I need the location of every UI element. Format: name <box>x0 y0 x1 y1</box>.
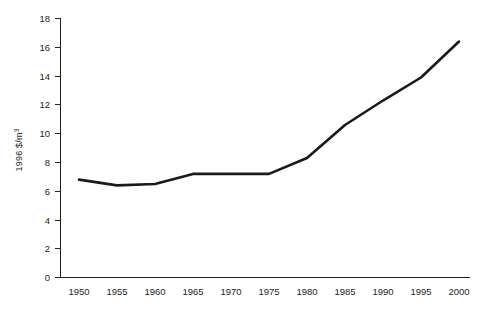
y-tick-label: 0 <box>45 272 50 283</box>
y-tick-label: 16 <box>39 42 50 53</box>
x-tick-label: 1985 <box>334 286 355 297</box>
line-chart: 0 2 4 6 8 10 12 14 16 18 1950 1955 1960 … <box>0 0 483 315</box>
y-tick-label: 18 <box>39 13 50 24</box>
x-tick-label: 2000 <box>448 286 469 297</box>
y-tick-label: 6 <box>45 186 50 197</box>
chart-canvas: 0 2 4 6 8 10 12 14 16 18 1950 1955 1960 … <box>0 0 483 315</box>
x-tick-label: 1975 <box>258 286 279 297</box>
y-tick-label: 4 <box>45 215 50 226</box>
x-tick-label: 1955 <box>106 286 127 297</box>
y-tick-label: 10 <box>39 128 50 139</box>
x-tick-label: 1960 <box>144 286 165 297</box>
x-tick-label: 1965 <box>182 286 203 297</box>
y-axis-title-superscript: 3 <box>13 128 20 132</box>
x-tick-label: 1990 <box>372 286 393 297</box>
x-tick-label: 1970 <box>220 286 241 297</box>
x-tick-label: 1980 <box>296 286 317 297</box>
svg-text:1996 $/m3: 1996 $/m3 <box>13 128 24 171</box>
y-axis-title: 1996 $/m3 <box>13 128 24 171</box>
y-axis-title-text: 1996 $/m <box>14 132 24 171</box>
y-tick-label: 14 <box>39 71 50 82</box>
y-tick-label: 2 <box>45 243 50 254</box>
y-tick-label: 12 <box>39 99 50 110</box>
chart-background <box>0 0 483 315</box>
x-tick-label: 1950 <box>68 286 89 297</box>
y-tick-label: 8 <box>45 157 50 168</box>
x-tick-label: 1995 <box>410 286 431 297</box>
